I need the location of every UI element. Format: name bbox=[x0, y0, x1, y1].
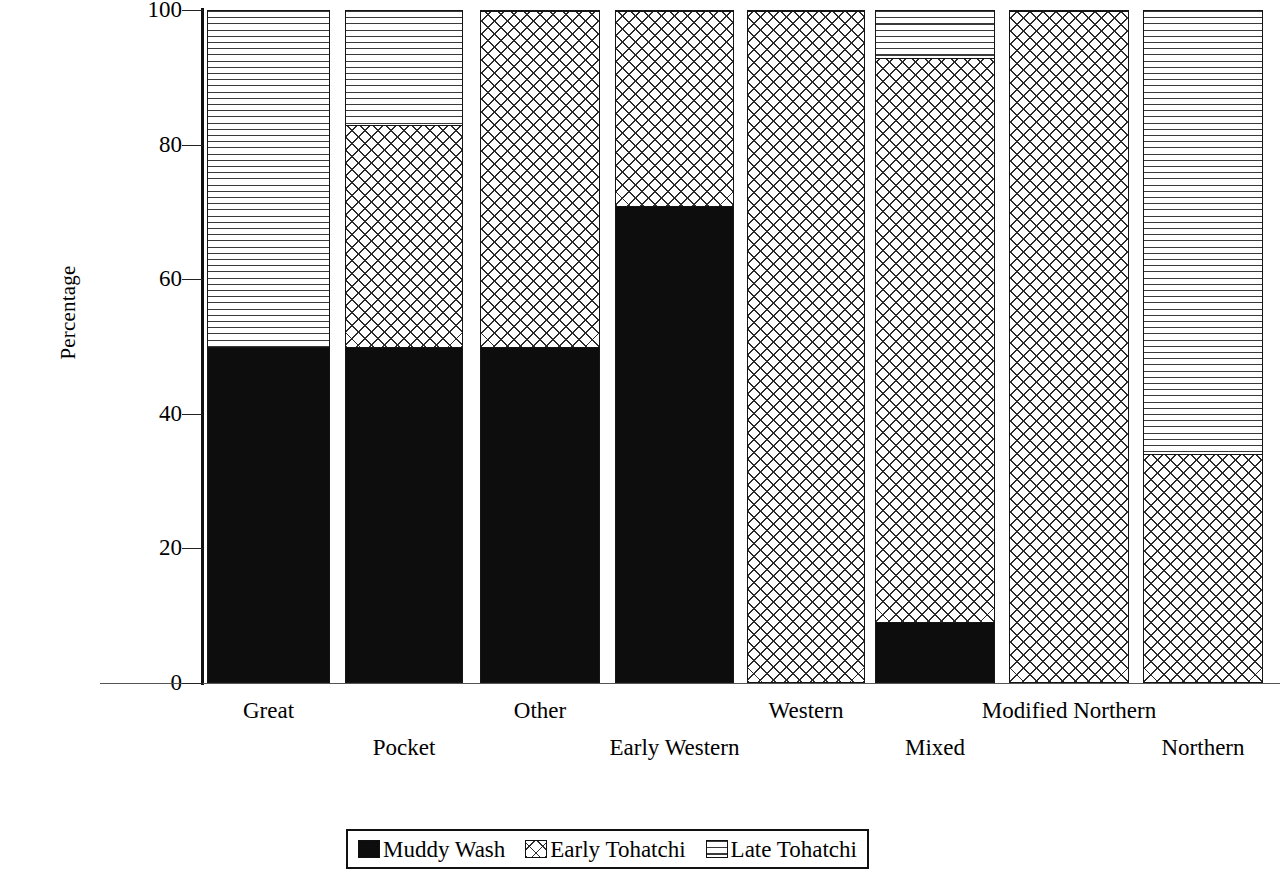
y-tick-label: 60 bbox=[70, 267, 182, 290]
bar-segment-early-tohatchi bbox=[748, 11, 864, 682]
x-axis-category-labels: GreatPocketOtherEarly WesternWesternMixe… bbox=[0, 694, 1282, 774]
legend-label: Late Tohatchi bbox=[731, 838, 857, 861]
bar-segment-early-tohatchi bbox=[481, 11, 599, 347]
category-label-western: Western bbox=[769, 697, 844, 725]
y-axis-tick-labels: 020406080100 bbox=[70, 0, 182, 693]
y-tick-label: 20 bbox=[70, 536, 182, 559]
x-axis-line bbox=[100, 683, 1280, 684]
bar-segment-muddy-wash bbox=[481, 347, 599, 683]
bar-segment-early-tohatchi bbox=[346, 125, 462, 346]
bar-great[interactable] bbox=[207, 10, 330, 683]
y-tick-mark bbox=[182, 414, 203, 415]
y-tick-label: 80 bbox=[70, 133, 182, 156]
bar-pocket[interactable] bbox=[345, 10, 463, 683]
legend-swatch-solid-black-icon bbox=[358, 840, 380, 858]
y-tick-mark bbox=[182, 10, 203, 11]
bar-segment-early-tohatchi bbox=[616, 11, 733, 206]
bar-mixed[interactable] bbox=[875, 10, 995, 683]
legend-swatch-horizontal-lines-icon bbox=[706, 840, 728, 858]
bar-segment-muddy-wash bbox=[208, 347, 329, 683]
category-label-modified-northern: Modified Northern bbox=[982, 697, 1156, 725]
category-label-early-western: Early Western bbox=[610, 734, 740, 762]
y-tick-mark bbox=[182, 279, 203, 280]
bar-segment-early-tohatchi bbox=[1010, 11, 1128, 682]
y-tick-label: 40 bbox=[70, 402, 182, 425]
bar-segment-muddy-wash bbox=[616, 206, 733, 682]
y-tick-mark bbox=[182, 683, 203, 684]
bar-segment-early-tohatchi bbox=[876, 58, 994, 622]
category-label-mixed: Mixed bbox=[905, 734, 965, 762]
y-tick-mark bbox=[182, 548, 203, 549]
bar-segment-muddy-wash bbox=[346, 347, 462, 683]
legend-item-late-tohatchi[interactable]: Late Tohatchi bbox=[706, 838, 857, 861]
plot-area bbox=[203, 10, 1275, 683]
bar-other[interactable] bbox=[480, 10, 600, 683]
bar-segment-early-tohatchi bbox=[1144, 454, 1262, 682]
y-tick-label: 100 bbox=[70, 0, 182, 21]
bar-early-western[interactable] bbox=[615, 10, 734, 683]
bar-northern[interactable] bbox=[1143, 10, 1263, 683]
legend-swatch-cross-hatch-icon bbox=[525, 840, 547, 858]
chart-legend: Muddy WashEarly TohatchiLate Tohatchi bbox=[346, 829, 869, 869]
category-label-pocket: Pocket bbox=[373, 734, 436, 762]
bar-segment-late-tohatchi bbox=[1144, 11, 1262, 454]
y-tick-mark bbox=[182, 145, 203, 146]
bar-modified-northern[interactable] bbox=[1009, 10, 1129, 683]
legend-label: Muddy Wash bbox=[383, 838, 505, 861]
legend-label: Early Tohatchi bbox=[550, 838, 685, 861]
bar-segment-late-tohatchi bbox=[208, 11, 329, 347]
category-label-other: Other bbox=[514, 697, 566, 725]
bar-segment-muddy-wash bbox=[876, 622, 994, 682]
legend-item-muddy-wash[interactable]: Muddy Wash bbox=[358, 838, 505, 861]
category-label-great: Great bbox=[243, 697, 294, 725]
category-label-northern: Northern bbox=[1161, 734, 1244, 762]
legend-item-early-tohatchi[interactable]: Early Tohatchi bbox=[525, 838, 685, 861]
bar-western[interactable] bbox=[747, 10, 865, 683]
stacked-bar-chart: Percentage 020406080100 GreatPocketOther… bbox=[0, 0, 1282, 893]
bar-segment-late-tohatchi bbox=[346, 11, 462, 125]
bar-segment-late-tohatchi bbox=[876, 11, 994, 58]
